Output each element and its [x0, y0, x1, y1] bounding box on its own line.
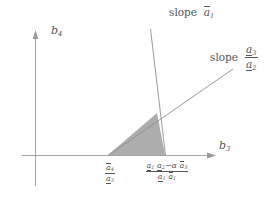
y-axis-label-subscript: 4 [58, 30, 62, 38]
x-tick-left-numerator: a4 [105, 164, 115, 173]
x-tick-right-num-minus: − [165, 161, 172, 170]
slope-shallow-numerator: a3 [245, 44, 258, 57]
slope-shallow-den-base: a [246, 59, 252, 70]
x-tick-label-left: a4 a3 [90, 164, 130, 183]
slope-word-steep: slope [169, 6, 197, 18]
x-tick-right-den-a1bar-subscript: 1 [173, 175, 176, 181]
x-tick-label-right: a1 a2−α a3 a1 a1 [128, 162, 206, 181]
x-tick-right-numerator: a1 a2−α a3 [146, 162, 189, 171]
slope-shallow-den-subscript: 2 [252, 64, 256, 72]
x-axis-label-subscript: 3 [226, 145, 230, 153]
x-tick-right-den-a1-base: a [158, 173, 163, 181]
slope-label-shallow: slope a3 a2 [210, 44, 258, 72]
x-tick-left-denominator: a3 [105, 173, 115, 183]
x-tick-right-den-a1bar-base: a [168, 173, 173, 181]
slope-steep-value-subscript: 1 [210, 12, 214, 20]
x-tick-left-den-base: a [106, 175, 111, 183]
y-axis-label-base: b [51, 24, 58, 37]
x-axis-arrowhead [207, 153, 216, 159]
x-tick-left-num-subscript: 4 [111, 166, 114, 172]
x-axis-label: b3 [219, 140, 230, 153]
x-tick-right-num-a3-base: a [180, 162, 185, 170]
slope-shallow-num-subscript: 3 [252, 49, 256, 57]
x-tick-right-num-a3-subscript: 3 [184, 164, 187, 170]
feasible-region-diagram: b4 b3 slope a1 slope a3 a2 a4 a3 a1 a2−α… [0, 0, 280, 205]
slope-shallow-denominator: a2 [245, 57, 258, 72]
slope-shallow-fraction: a3 a2 [245, 44, 258, 72]
x-tick-left-den-subscript: 3 [111, 177, 114, 183]
x-tick-right-denominator: a1 a1 [146, 171, 189, 181]
x-tick-left-fraction: a4 a3 [105, 164, 115, 183]
x-axis-label-base: b [219, 139, 226, 152]
slope-label-steep: slope a1 [169, 7, 214, 19]
shaded-region [108, 113, 165, 155]
slope-word-shallow: slope [210, 51, 238, 63]
y-axis-arrowhead [33, 30, 39, 39]
slope-steep-value-base: a [204, 7, 210, 18]
x-tick-right-fraction: a1 a2−α a3 a1 a1 [146, 162, 189, 181]
x-tick-right-num-a2-base: a [157, 162, 162, 170]
x-tick-right-num-a1-base: a [146, 162, 151, 170]
slope-shallow-num-base: a [246, 44, 252, 55]
x-tick-left-num-base: a [106, 164, 111, 172]
y-axis-label: b4 [51, 25, 62, 38]
shallow-slope-line [108, 69, 233, 156]
